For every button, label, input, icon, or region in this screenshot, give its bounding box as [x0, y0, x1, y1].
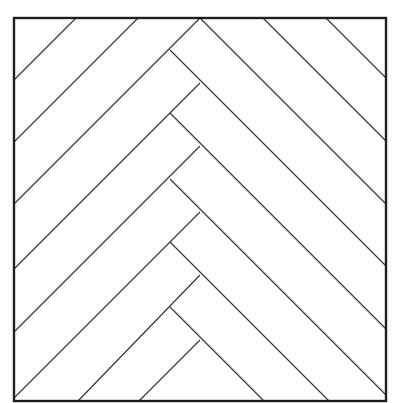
herringbone-diagram [0, 0, 393, 403]
